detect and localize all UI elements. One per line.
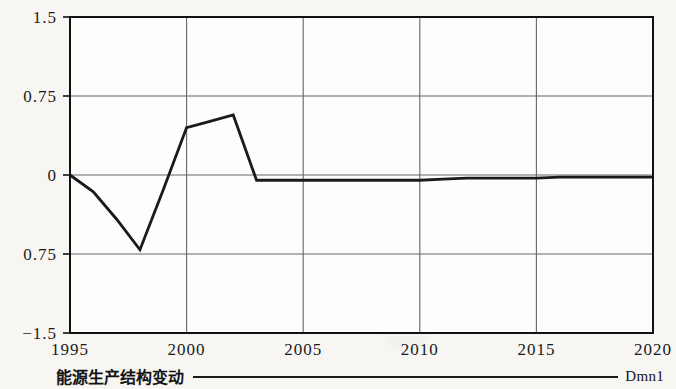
chart-svg: 1.50.7500.75−1.5 19952000200520102015202… — [0, 0, 676, 389]
x-axis-tick-label: 2000 — [168, 340, 206, 359]
legend-series-label: 能源生产结构变动 — [56, 364, 184, 388]
x-axis-tick-label: 2005 — [284, 340, 322, 359]
y-axis-labels: 1.50.7500.75−1.5 — [22, 8, 57, 343]
x-axis-tick-label: 2020 — [634, 340, 672, 359]
y-axis-tick-label: 0 — [48, 166, 58, 185]
x-axis-tick-label: 2015 — [517, 340, 555, 359]
line-chart: 1.50.7500.75−1.5 19952000200520102015202… — [0, 0, 676, 389]
y-axis-tick-marks — [63, 17, 70, 333]
legend: 能源生产结构变动 Dmn1 — [0, 363, 676, 389]
legend-line-sample — [193, 376, 618, 378]
y-axis-tick-label: 0.75 — [23, 87, 57, 106]
x-axis-labels: 199520002005201020152020 — [51, 340, 672, 359]
legend-axis-label: Dmn1 — [625, 368, 664, 385]
x-axis-tick-label: 1995 — [51, 340, 89, 359]
x-axis-tick-label: 2010 — [401, 340, 439, 359]
y-axis-tick-label: 1.5 — [33, 8, 57, 27]
y-axis-tick-label: 0.75 — [23, 245, 57, 264]
